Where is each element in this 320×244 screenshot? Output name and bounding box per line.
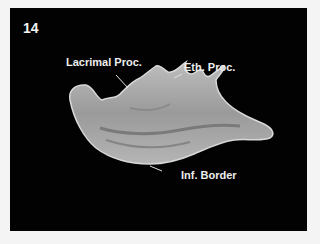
bone-specimen-image [10, 8, 307, 231]
figure-number: 14 [23, 20, 39, 36]
label-inferior-border: Inf. Border [181, 169, 237, 181]
figure-panel: 14 Lacrimal Proc. Eth. Proc. Inf. Border [10, 8, 307, 231]
label-lacrimal-process: Lacrimal Proc. [66, 56, 142, 68]
label-ethmoidal-process: Eth. Proc. [184, 61, 235, 73]
